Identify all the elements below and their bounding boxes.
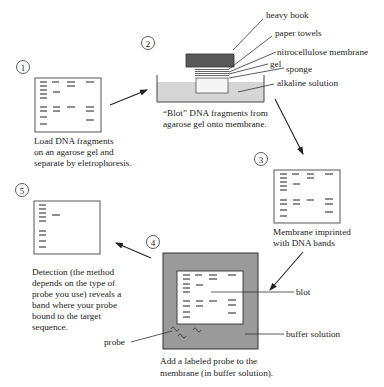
step-2: 2 heavy book paper towels nitrocellulose… <box>142 10 369 129</box>
step-2-caption: “Blot” DNA fragments from agarose gel on… <box>163 108 270 129</box>
label-gel: gel <box>270 59 282 69</box>
label-sponge: sponge <box>286 64 312 74</box>
step-1: 1 Load DNA fragments on an agarose gel a… <box>17 61 132 169</box>
step-number-4: 4 <box>151 238 156 248</box>
step-3-caption: Membrane imprinted with DNA bands <box>273 227 353 248</box>
label-heavy-book: heavy book <box>266 10 309 20</box>
step-1-caption: Load DNA fragments on an agarose gel and… <box>34 136 132 168</box>
label-buffer-solution: buffer solution <box>286 329 341 339</box>
step-3: 3 Membrane imprinted with DNA bands <box>255 153 354 249</box>
step-4-caption: Add a labeled probe to the membrane (in … <box>160 356 273 378</box>
arrow-step1-to-step2 <box>110 90 147 105</box>
step-5-caption: Detection (the method depends on the typ… <box>32 267 124 332</box>
label-nitrocellulose-membrane: nitrocellulose membrane <box>277 47 368 57</box>
label-alkaline-solution: alkaline solution <box>277 78 338 88</box>
label-blot: blot <box>296 287 311 297</box>
sponge <box>196 78 228 93</box>
arrow-step2-to-step3 <box>275 99 303 154</box>
step-number-5: 5 <box>20 186 25 196</box>
arrow-step4-to-step5 <box>116 243 151 258</box>
label-paper-towels: paper towels <box>275 28 322 38</box>
step-5: 5 Detection (the method depends on the t… <box>16 184 124 333</box>
arrow-step3-to-step4 <box>270 252 303 290</box>
step-number-1: 1 <box>21 63 26 73</box>
step-4: 4 blot buffer solution probe Add a l <box>104 236 341 379</box>
heavy-book <box>186 54 234 67</box>
label-probe: probe <box>104 337 125 347</box>
step-number-2: 2 <box>146 39 151 49</box>
southern-blot-diagram: 1 Load DNA fragments on an agarose gel a… <box>0 0 384 387</box>
step-number-3: 3 <box>259 155 264 165</box>
